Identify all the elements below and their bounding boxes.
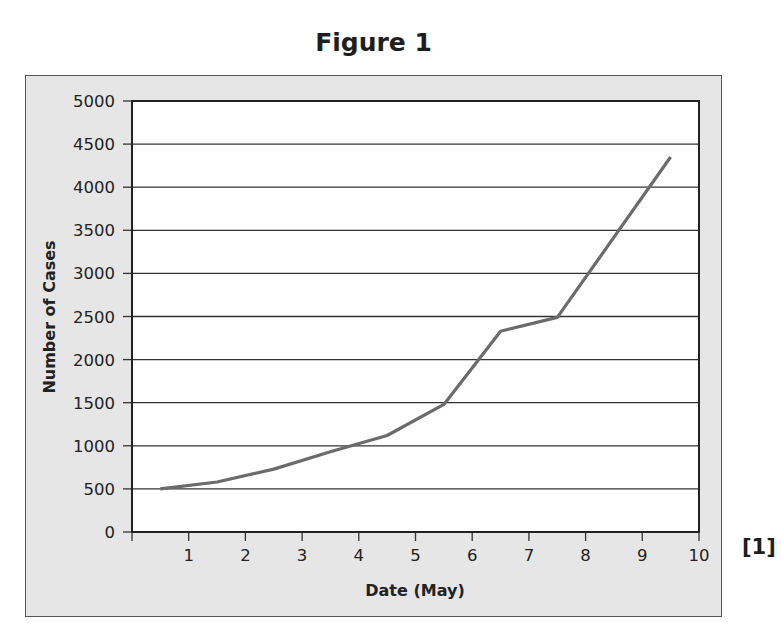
x-tick-label: 4 [354, 546, 365, 565]
x-tick-label: 7 [524, 546, 535, 565]
x-tick-label: 8 [580, 546, 591, 565]
x-axis-ticks: 12345678910 [132, 532, 710, 565]
x-tick-label: 6 [467, 546, 478, 565]
x-tick-label: 10 [689, 546, 710, 565]
x-axis-label: Date (May) [365, 581, 464, 600]
y-tick-label: 1000 [73, 437, 115, 456]
y-tick-label: 0 [105, 523, 116, 542]
x-tick-label: 5 [410, 546, 421, 565]
line-chart: 0500100015002000250030003500400045005000… [0, 0, 781, 642]
x-tick-label: 1 [183, 546, 194, 565]
y-tick-label: 4000 [73, 178, 115, 197]
y-tick-label: 4500 [73, 135, 115, 154]
y-tick-label: 2000 [73, 351, 115, 370]
y-tick-label: 1500 [73, 394, 115, 413]
x-tick-label: 2 [240, 546, 251, 565]
y-tick-label: 5000 [73, 92, 115, 111]
x-tick-label: 3 [297, 546, 308, 565]
x-tick-label: 9 [637, 546, 648, 565]
y-tick-label: 500 [84, 480, 116, 499]
y-tick-label: 3500 [73, 221, 115, 240]
y-axis-label: Number of Cases [40, 240, 59, 393]
marks-label: [1] [742, 535, 776, 559]
y-tick-label: 2500 [73, 308, 115, 327]
y-tick-label: 3000 [73, 264, 115, 283]
y-axis-ticks: 0500100015002000250030003500400045005000 [73, 92, 132, 542]
